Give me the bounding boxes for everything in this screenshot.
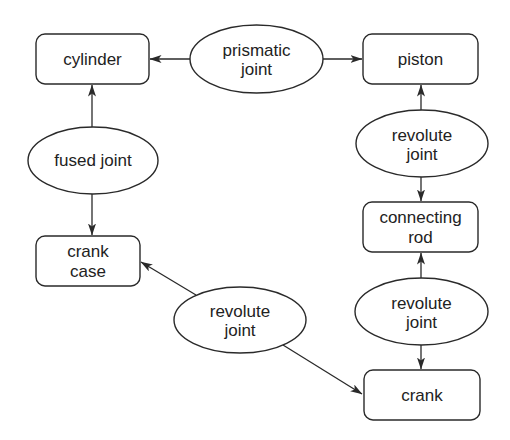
prismatic-joint-label-line2: joint <box>240 60 272 79</box>
node-cylinder: cylinder <box>36 34 149 84</box>
piston-label: piston <box>398 50 443 69</box>
mechanism-diagram: cylinder piston crank case connecting ro… <box>0 0 510 440</box>
crank-case-label-line1: crank <box>67 242 109 261</box>
crank-case-label-line2: case <box>70 262 106 281</box>
revolute-joint-bottom-right-label-line1: revolute <box>391 294 451 313</box>
node-piston: piston <box>363 34 478 84</box>
revolute-joint-middle-label-line2: joint <box>223 321 255 340</box>
node-connecting-rod: connecting rod <box>363 202 478 252</box>
revolute-joint-top-right-label-line2: joint <box>405 145 437 164</box>
node-crank-case: crank case <box>36 236 140 286</box>
connecting-rod-label-line2: rod <box>408 228 433 247</box>
revolute-joint-top-right-label-line1: revolute <box>392 126 452 145</box>
node-revolute-joint-top-right: revolute joint <box>356 110 488 177</box>
cylinder-label: cylinder <box>63 50 122 69</box>
crank-label: crank <box>401 386 443 405</box>
connecting-rod-label-line1: connecting <box>379 208 461 227</box>
edge-revolute-middle-to-crank-case <box>141 262 196 295</box>
prismatic-joint-label-line1: prismatic <box>222 41 291 60</box>
node-revolute-joint-middle: revolute joint <box>174 287 306 353</box>
fused-joint-label: fused joint <box>54 151 132 170</box>
node-prismatic-joint: prismatic joint <box>190 25 323 93</box>
revolute-joint-middle-label-line1: revolute <box>210 302 270 321</box>
edge-revolute-middle-to-crank <box>283 345 362 394</box>
node-fused-joint: fused joint <box>28 127 158 194</box>
node-crank: crank <box>364 370 480 420</box>
revolute-joint-bottom-right-label-line2: joint <box>405 313 437 332</box>
node-revolute-joint-bottom-right: revolute joint <box>355 278 488 345</box>
